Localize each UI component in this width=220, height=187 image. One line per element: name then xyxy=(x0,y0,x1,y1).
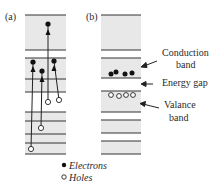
conduction-band-label-1: Conduction xyxy=(162,47,209,58)
panel-b: (b) xyxy=(86,11,141,154)
electron-legend-icon xyxy=(62,163,66,167)
panel-a-label: (a) xyxy=(5,11,16,23)
valence-band-label-1: Valance xyxy=(164,99,196,110)
band-diagram: (a) ( xyxy=(0,0,220,187)
valence-band-label-2: band xyxy=(169,112,188,123)
legend-electrons: Electrons xyxy=(68,160,107,171)
energy-gap-label: Energy gap xyxy=(162,77,208,88)
conduction-band-label-2: band xyxy=(176,59,195,70)
panel-b-label: (b) xyxy=(86,11,98,23)
hole-legend-icon xyxy=(62,175,66,179)
legend: Electrons Holes xyxy=(62,160,107,183)
annotation-arrows xyxy=(140,61,159,108)
panel-a: (a) xyxy=(5,11,66,154)
legend-holes: Holes xyxy=(68,172,92,183)
